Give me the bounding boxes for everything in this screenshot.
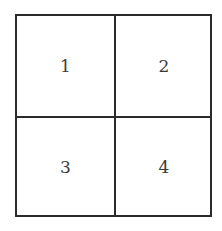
grid-cell-4: 4 (116, 118, 212, 215)
cell-label: 2 (159, 56, 170, 76)
cell-label: 3 (60, 157, 71, 177)
grid-cell-3: 3 (17, 118, 114, 215)
cell-label: 4 (159, 157, 170, 177)
quadrant-grid: 1 2 3 4 (15, 14, 212, 217)
grid-cell-2: 2 (116, 16, 212, 116)
cell-label: 1 (60, 56, 71, 76)
grid-cell-1: 1 (17, 16, 114, 116)
